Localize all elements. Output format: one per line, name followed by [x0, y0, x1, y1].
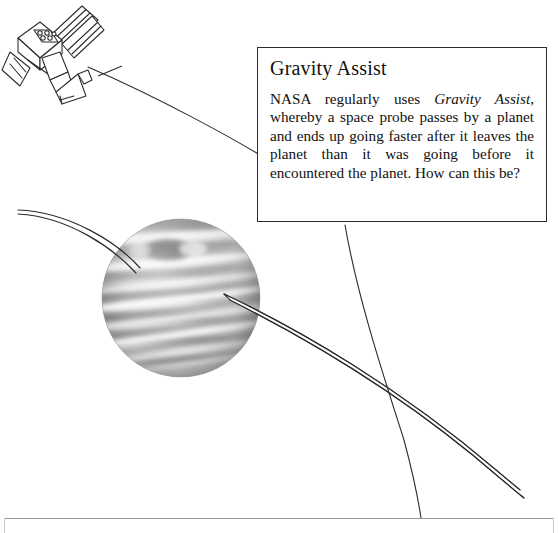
- probe-departure-line: [88, 67, 268, 160]
- planet: [76, 204, 268, 392]
- outgoing-flyby-trajectory: [224, 294, 524, 498]
- outgoing-trajectory-fill: [227, 297, 522, 494]
- probe-velocity-tick: [98, 66, 122, 76]
- footer-frame: [4, 518, 554, 533]
- callout-body: NASA regularly uses Gravity Assist, wher…: [270, 90, 534, 182]
- page-footer: [0, 518, 558, 533]
- spacecraft: [2, 6, 104, 104]
- callout-body-segment-1-italic: Gravity Assist: [434, 90, 530, 107]
- gravity-assist-callout: Gravity Assist NASA regularly uses Gravi…: [257, 47, 547, 222]
- callout-body-segment-0: NASA regularly uses: [270, 90, 434, 107]
- callout-heading: Gravity Assist: [270, 57, 534, 80]
- figure-page: Gravity Assist NASA regularly uses Gravi…: [0, 0, 558, 533]
- outgoing-flyby-trajectory-edges: [224, 294, 524, 498]
